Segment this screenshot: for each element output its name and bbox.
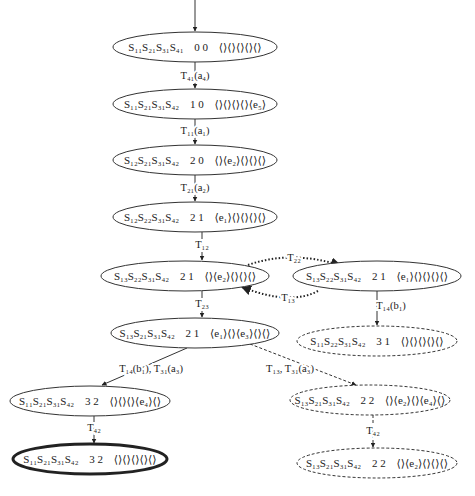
- state-name: S₁₂S₂₂S₃₁S₄₂: [124, 211, 179, 223]
- state-node-4: S₁₂S₂₂S₃₁S₄₂ 2 1 ⟨e₁⟩⟨⟩⟨⟩⟨⟩⟨⟩: [113, 202, 277, 232]
- svg-text:S₁₁S₂₁S₃₁S₄₂ 1 0: S₁₁S₂₁S₃₁S₄₂ 1 0 ⟨⟩⟨⟩⟨⟩⟨⟩⟨e₅⟩: [124, 98, 266, 110]
- state-queues: ⟨⟩⟨⟩⟨⟩⟨e₄⟩⟨⟩: [109, 395, 161, 407]
- state-name: S₁₃S₂₁S₃₁S₄₂: [306, 457, 361, 469]
- state-queues: ⟨⟩⟨⟩⟨⟩⟨⟩⟨⟩: [114, 453, 157, 465]
- state-marking: 3 2: [89, 453, 103, 465]
- edge-n6-n5: [242, 287, 318, 298]
- state-node-10-final: S₁₁S₂₁S₃₁S₄₂ 3 2 ⟨⟩⟨⟩⟨⟩⟨⟩⟨⟩: [13, 444, 167, 474]
- state-name: S₁₂S₂₁S₃₁S₄₂: [124, 154, 179, 166]
- state-node-1: S₁₁S₂₁S₃₁S₄₁ 0 0 ⟨⟩⟨⟩⟨⟩⟨⟩⟨⟩: [113, 32, 277, 62]
- svg-text:S₁₁S₂₁S₃₁S₄₁ 0 0: S₁₁S₂₁S₃₁S₄₁ 0 0 ⟨⟩⟨⟩⟨⟩⟨⟩⟨⟩: [128, 41, 261, 53]
- state-marking: 3 1: [376, 335, 390, 347]
- state-node-9: S₁₁S₂₁S₃₁S₄₂ 3 2 ⟨⟩⟨⟩⟨⟩⟨e₄⟩⟨⟩: [10, 386, 170, 416]
- edge-label-n5-n7: T₂₃: [195, 298, 209, 309]
- state-queues: ⟨⟩⟨e₂⟩⟨⟩⟨⟩⟨⟩: [214, 154, 266, 166]
- edge-label-n1-n2: T₄₁(a₄): [180, 70, 210, 82]
- state-queues: ⟨e₁⟩⟨⟩⟨⟩⟨⟩⟨⟩: [396, 270, 448, 282]
- state-marking: 0 0: [194, 41, 208, 53]
- svg-text:S₁₁S₂₂S₃₁S₄₂ 3 1: S₁₁S₂₂S₃₁S₄₂ 3 1 ⟨⟩⟨⟩⟨⟩⟨⟩⟨⟩: [310, 335, 443, 347]
- state-node-12: S₁₃S₂₁S₃₁S₄₂ 2 2 ⟨⟩⟨e₂⟩⟨⟩⟨⟩⟨⟩: [297, 448, 457, 478]
- state-queues: ⟨⟩⟨⟩⟨⟩⟨⟩⟨⟩: [219, 41, 262, 53]
- svg-text:S₁₁S₂₁S₃₁S₄₂ 3 2: S₁₁S₂₁S₃₁S₄₂ 3 2 ⟨⟩⟨⟩⟨⟩⟨⟩⟨⟩: [23, 453, 156, 465]
- svg-text:S₁₃S₂₂S₃₁S₄₂ 2 1: S₁₃S₂₂S₃₁S₄₂ 2 1 ⟨e₁⟩⟨⟩⟨⟩⟨⟩⟨⟩: [306, 270, 448, 282]
- edge-label-n7-n9: T₁₄(b₁), T₃₁(a₃): [119, 363, 183, 375]
- state-graph: T₄₁(a₄) T₁₁(a₁) T₂₁(a₂) T₁₂ T₂₂ T₁₃ T₂₃ …: [0, 0, 475, 496]
- edge-label-n4-n5: T₁₂: [195, 239, 209, 250]
- state-marking: 2 1: [190, 211, 204, 223]
- state-node-11: S₁₃S₂₁S₃₁S₄₂ 2 2 ⟨⟩⟨e₂⟩⟨⟩⟨e₄⟩⟨⟩: [290, 385, 450, 415]
- state-marking: 1 0: [190, 98, 204, 110]
- state-queues: ⟨⟩⟨⟩⟨⟩⟨⟩⟨e₅⟩: [214, 98, 266, 110]
- state-marking: 2 1: [186, 327, 200, 339]
- nodes: S₁₁S₂₁S₃₁S₄₁ 0 0 ⟨⟩⟨⟩⟨⟩⟨⟩⟨⟩ S₁₁S₂₁S₃₁S₄₂…: [10, 32, 461, 478]
- state-node-5: S₁₃S₂₂S₃₁S₄₂ 2 1 ⟨⟩⟨e₂⟩⟨⟩⟨⟩⟨⟩: [101, 261, 269, 291]
- edge-label-n2-n3: T₁₁(a₁): [180, 125, 210, 137]
- state-name: S₁₃S₂₂S₃₁S₄₂: [306, 270, 361, 282]
- svg-text:S₁₃S₂₁S₃₁S₄₂ 2 2: S₁₃S₂₁S₃₁S₄₂ 2 2 ⟨⟩⟨e₂⟩⟨⟩⟨e₄⟩⟨⟩: [295, 394, 446, 406]
- edge-label-n3-n4: T₂₁(a₂): [180, 182, 210, 194]
- state-name: S₁₃S₂₁S₃₁S₄₂: [120, 327, 175, 339]
- state-name: S₁₁S₂₂S₃₁S₄₂: [310, 335, 365, 347]
- edge-label-n7-n11: T₁₃, T₃₁(a₃): [266, 363, 314, 375]
- svg-text:S₁₁S₂₁S₃₁S₄₂ 3 2: S₁₁S₂₁S₃₁S₄₂ 3 2 ⟨⟩⟨⟩⟨⟩⟨e₄⟩⟨⟩: [19, 395, 161, 407]
- state-marking: 3 2: [85, 395, 99, 407]
- svg-text:S₁₃S₂₁S₃₁S₄₂ 2 2: S₁₃S₂₁S₃₁S₄₂ 2 2 ⟨⟩⟨e₂⟩⟨⟩⟨⟩⟨⟩: [306, 457, 448, 469]
- state-marking: 2 2: [372, 457, 386, 469]
- state-queues: ⟨⟩⟨e₂⟩⟨⟩⟨e₄⟩⟨⟩: [385, 394, 445, 406]
- state-name: S₁₁S₂₁S₃₁S₄₂: [23, 453, 78, 465]
- state-name: S₁₃S₂₂S₃₁S₄₂: [114, 270, 169, 282]
- state-node-7: S₁₃S₂₁S₃₁S₄₂ 2 1 ⟨e₁⟩⟨⟩⟨e₃⟩⟨⟩⟨⟩: [111, 318, 279, 348]
- state-marking: 2 1: [372, 270, 386, 282]
- state-node-2: S₁₁S₂₁S₃₁S₄₂ 1 0 ⟨⟩⟨⟩⟨⟩⟨⟩⟨e₅⟩: [113, 89, 277, 119]
- svg-text:S₁₂S₂₂S₃₁S₄₂ 2 1: S₁₂S₂₂S₃₁S₄₂ 2 1 ⟨e₁⟩⟨⟩⟨⟩⟨⟩⟨⟩: [124, 211, 266, 223]
- state-name: S₁₃S₂₁S₃₁S₄₂: [295, 394, 350, 406]
- edge-label-n6-n5: T₁₃: [281, 292, 295, 303]
- edge-label-n5-n6: T₂₂: [287, 252, 301, 263]
- state-node-3: S₁₂S₂₁S₃₁S₄₂ 2 0 ⟨⟩⟨e₂⟩⟨⟩⟨⟩⟨⟩: [113, 145, 277, 175]
- state-queues: ⟨⟩⟨e₂⟩⟨⟩⟨⟩⟨⟩: [204, 270, 256, 282]
- state-marking: 2 2: [361, 394, 375, 406]
- edge-label-n11-n12: T₄₂: [366, 425, 380, 436]
- state-queues: ⟨e₁⟩⟨⟩⟨e₃⟩⟨⟩⟨⟩: [210, 327, 270, 339]
- state-queues: ⟨⟩⟨⟩⟨⟩⟨⟩⟨⟩: [401, 335, 444, 347]
- state-name: S₁₁S₂₁S₃₁S₄₂: [19, 395, 74, 407]
- svg-text:S₁₂S₂₁S₃₁S₄₂ 2 0: S₁₂S₂₁S₃₁S₄₂ 2 0 ⟨⟩⟨e₂⟩⟨⟩⟨⟩⟨⟩: [124, 154, 266, 166]
- edge-label-n6-n8: T₁₄(b₁): [376, 300, 406, 312]
- svg-text:S₁₃S₂₂S₃₁S₄₂ 2 1: S₁₃S₂₂S₃₁S₄₂ 2 1 ⟨⟩⟨e₂⟩⟨⟩⟨⟩⟨⟩: [114, 270, 256, 282]
- state-queues: ⟨e₁⟩⟨⟩⟨⟩⟨⟩⟨⟩: [214, 211, 266, 223]
- state-marking: 2 1: [180, 270, 194, 282]
- state-name: S₁₁S₂₁S₃₁S₄₁: [128, 41, 183, 53]
- state-queues: ⟨⟩⟨e₂⟩⟨⟩⟨⟩⟨⟩: [396, 457, 448, 469]
- state-marking: 2 0: [190, 154, 204, 166]
- edge-label-n9-n10: T₄₂: [87, 422, 101, 433]
- state-name: S₁₁S₂₁S₃₁S₄₂: [124, 98, 179, 110]
- svg-text:S₁₃S₂₁S₃₁S₄₂ 2 1: S₁₃S₂₁S₃₁S₄₂ 2 1 ⟨e₁⟩⟨⟩⟨e₃⟩⟨⟩⟨⟩: [120, 327, 271, 339]
- state-node-6: S₁₃S₂₂S₃₁S₄₂ 2 1 ⟨e₁⟩⟨⟩⟨⟩⟨⟩⟨⟩: [293, 261, 461, 291]
- state-node-8: S₁₁S₂₂S₃₁S₄₂ 3 1 ⟨⟩⟨⟩⟨⟩⟨⟩⟨⟩: [297, 326, 457, 356]
